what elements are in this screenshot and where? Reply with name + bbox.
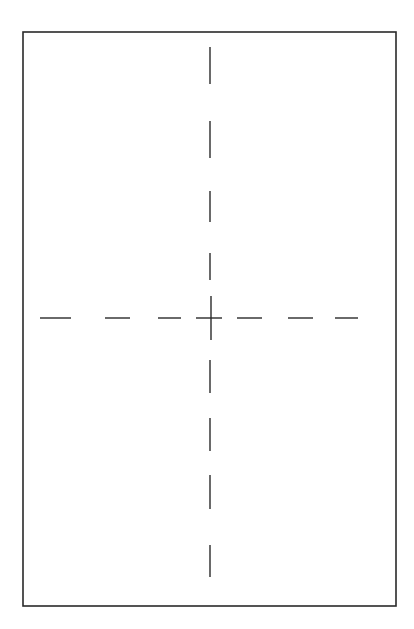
layout-diagram (0, 0, 414, 629)
page-background (0, 0, 414, 629)
